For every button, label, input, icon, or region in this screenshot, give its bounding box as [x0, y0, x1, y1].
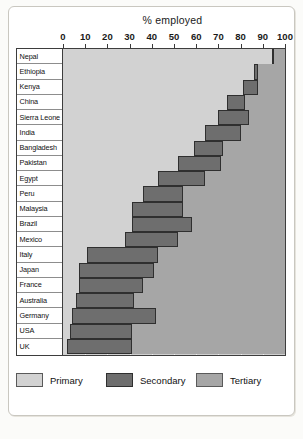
- bar-segment-secondary: [243, 80, 259, 95]
- chart-figure: % employed 0102030405060708090100 NepalE…: [0, 0, 303, 439]
- legend-item: Primary: [16, 373, 106, 387]
- bar-segment-secondary: [143, 186, 183, 201]
- bar-segment-primary: [63, 110, 218, 125]
- x-tick-label: 20: [102, 31, 113, 42]
- bar-row: [63, 263, 285, 278]
- category-label: USA: [17, 324, 62, 339]
- category-label: China: [17, 95, 62, 110]
- bar-segment-secondary: [72, 308, 156, 323]
- x-tick-label: 60: [191, 31, 202, 42]
- plot-area: NepalEthiopiaKenyaChinaSierra LeoneIndia…: [16, 48, 286, 356]
- bar-segment-tertiary: [258, 64, 285, 79]
- bar-segment-secondary: [218, 110, 249, 125]
- bar-segment-primary: [63, 232, 125, 247]
- x-tick-label: 80: [235, 31, 246, 42]
- legend-swatch-tertiary: [196, 373, 223, 387]
- category-label: Italy: [17, 247, 62, 262]
- bar-segment-secondary: [132, 217, 192, 232]
- x-tick-label: 50: [169, 31, 180, 42]
- bar-row: [63, 156, 285, 171]
- bar-row: [63, 95, 285, 110]
- bar-segment-secondary: [70, 324, 132, 339]
- bar-segment-primary: [63, 202, 132, 217]
- category-label: Kenya: [17, 80, 62, 95]
- bar-segment-tertiary: [143, 278, 285, 293]
- bar-row: [63, 232, 285, 247]
- chart-title: % employed: [55, 14, 290, 26]
- category-label: Nepal: [17, 49, 62, 64]
- bar-segment-tertiary: [245, 95, 285, 110]
- bar-segment-secondary: [178, 156, 220, 171]
- category-label: Pakistan: [17, 156, 62, 171]
- bar-segment-primary: [63, 125, 205, 140]
- bar-segment-secondary: [205, 125, 241, 140]
- bar-segment-tertiary: [132, 339, 285, 354]
- bar-row: [63, 308, 285, 323]
- x-tick-label: 0: [60, 31, 65, 42]
- category-label: Bangladesh: [17, 141, 62, 156]
- bar-segment-primary: [63, 186, 143, 201]
- bar-segment-secondary: [87, 247, 158, 262]
- x-tick-label: 70: [213, 31, 224, 42]
- bar-row: [63, 80, 285, 95]
- bar-segment-tertiary: [241, 125, 285, 140]
- bar-segment-primary: [63, 80, 243, 95]
- legend-swatch-secondary: [106, 373, 133, 387]
- bar-segment-tertiary: [183, 202, 285, 217]
- bar-segment-primary: [63, 156, 178, 171]
- category-label: India: [17, 125, 62, 140]
- category-label: Japan: [17, 263, 62, 278]
- bar-segment-tertiary: [258, 80, 285, 95]
- category-label: Egypt: [17, 171, 62, 186]
- bar-segment-secondary: [132, 202, 183, 217]
- bar-segment-primary: [63, 324, 70, 339]
- bar-row: [63, 186, 285, 201]
- bar-segment-primary: [63, 171, 158, 186]
- bar-segment-secondary: [76, 293, 134, 308]
- category-label: UK: [17, 339, 62, 354]
- bar-segment-primary: [63, 308, 72, 323]
- bar-segment-tertiary: [132, 324, 285, 339]
- bar-row: [63, 339, 285, 354]
- category-label: Peru: [17, 186, 62, 201]
- legend-label: Secondary: [140, 375, 185, 386]
- bar-row: [63, 202, 285, 217]
- bar-segment-primary: [63, 217, 132, 232]
- legend-swatch-primary: [16, 373, 43, 387]
- legend-item: Tertiary: [196, 373, 286, 387]
- bar-row: [63, 247, 285, 262]
- chart-legend: PrimarySecondaryTertiary: [16, 366, 286, 394]
- bar-row: [63, 110, 285, 125]
- bar-segment-primary: [63, 64, 254, 79]
- category-label: Germany: [17, 308, 62, 323]
- bar-segment-primary: [63, 247, 87, 262]
- bar-segment-secondary: [158, 171, 205, 186]
- bar-row: [63, 141, 285, 156]
- bar-segment-primary: [63, 263, 79, 278]
- bar-segment-tertiary: [205, 171, 285, 186]
- bar-segment-tertiary: [178, 232, 285, 247]
- stacked-bars: [63, 48, 286, 356]
- bar-segment-tertiary: [274, 49, 285, 64]
- bar-segment-tertiary: [154, 263, 285, 278]
- bar-row: [63, 125, 285, 140]
- category-label: Mexico: [17, 232, 62, 247]
- bar-segment-tertiary: [183, 186, 285, 201]
- bar-row: [63, 293, 285, 308]
- bar-segment-secondary: [227, 95, 245, 110]
- bar-row: [63, 324, 285, 339]
- category-label-column: NepalEthiopiaKenyaChinaSierra LeoneIndia…: [16, 48, 63, 356]
- bar-segment-tertiary: [156, 308, 285, 323]
- bar-segment-secondary: [79, 278, 143, 293]
- bar-segment-primary: [63, 141, 194, 156]
- x-axis: 0102030405060708090100: [0, 31, 303, 45]
- legend-label: Tertiary: [230, 375, 261, 386]
- category-label: Australia: [17, 293, 62, 308]
- bar-row: [63, 49, 285, 64]
- legend-label: Primary: [50, 375, 83, 386]
- category-label: Brazil: [17, 217, 62, 232]
- bar-segment-tertiary: [192, 217, 285, 232]
- bar-row: [63, 64, 285, 79]
- bar-segment-secondary: [125, 232, 178, 247]
- bar-segment-primary: [63, 278, 79, 293]
